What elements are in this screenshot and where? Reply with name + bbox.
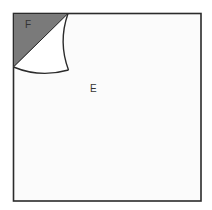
geometry-diagram: F E xyxy=(0,0,212,210)
label-e: E xyxy=(90,83,97,94)
label-f: F xyxy=(25,19,31,30)
